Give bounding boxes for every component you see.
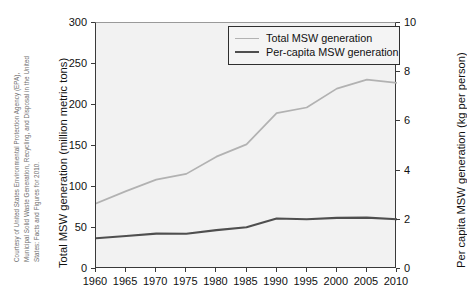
y-axis-right-tick-label: 8	[404, 65, 426, 77]
y-axis-right-tick-label: 10	[404, 16, 426, 28]
y-axis-left-tick-label: 100	[53, 180, 87, 192]
y-axis-right-title: Per capita MSW generation (kg per person…	[455, 52, 467, 268]
legend-label-total: Total MSW generation	[266, 32, 372, 44]
source-credit-line-3: States: Facts and Figures for 2010.	[33, 162, 40, 262]
y-axis-right-tick-label: 2	[404, 213, 426, 225]
y-axis-left-tick-label: 150	[53, 139, 87, 151]
x-axis-tickmark	[215, 268, 216, 272]
y-axis-left-tick-label: 250	[53, 57, 87, 69]
y-axis-left-tickmark	[91, 63, 95, 64]
source-credit-line-2: Municipal Solid Waste Generation, Recycl…	[23, 56, 30, 262]
y-axis-right-tickmark	[396, 22, 400, 23]
y-axis-left-tick-label: 50	[53, 221, 87, 233]
y-axis-left-title: Total MSW generation (million metric ton…	[57, 58, 69, 268]
source-credit: Courtesy of United States Environmental …	[0, 0, 42, 306]
x-axis-tick-label: 2010	[376, 275, 416, 287]
x-axis-tickmark	[125, 268, 126, 272]
x-axis-tickmark	[336, 268, 337, 272]
legend-item-percapita: Per-capita MSW generation	[235, 45, 393, 59]
per-capita-msw-generation-line	[96, 218, 397, 239]
y-axis-right-tick-label: 6	[404, 114, 426, 126]
total-msw-generation-line	[96, 80, 397, 204]
y-axis-left-tickmark	[91, 22, 95, 23]
y-axis-left-tickmark	[91, 104, 95, 105]
x-axis-tickmark	[366, 268, 367, 272]
x-axis-tickmark	[276, 268, 277, 272]
y-axis-left-tick-label: 200	[53, 98, 87, 110]
y-axis-right-tick-label: 0	[404, 262, 426, 274]
x-axis-tickmark	[185, 268, 186, 272]
y-axis-left-tickmark	[91, 186, 95, 187]
y-axis-right-tickmark	[396, 170, 400, 171]
legend: Total MSW generation Per-capita MSW gene…	[228, 26, 400, 65]
y-axis-right-tickmark	[396, 120, 400, 121]
source-credit-line-1: Courtesy of United States Environmental …	[13, 73, 20, 262]
legend-swatch-total-icon	[235, 38, 259, 39]
x-axis-tickmark	[396, 268, 397, 272]
y-axis-right-tick-label: 4	[404, 164, 426, 176]
y-axis-left-tick-label: 300	[53, 16, 87, 28]
y-axis-left-tick-label: 0	[53, 262, 87, 274]
x-axis-tickmark	[95, 268, 96, 272]
y-axis-right-tickmark	[396, 71, 400, 72]
legend-item-total: Total MSW generation	[235, 31, 393, 45]
legend-label-percapita: Per-capita MSW generation	[266, 46, 399, 58]
x-axis-tickmark	[155, 268, 156, 272]
y-axis-right-tickmark	[396, 219, 400, 220]
legend-swatch-percapita-icon	[235, 51, 259, 53]
y-axis-left-tickmark	[91, 145, 95, 146]
x-axis-tickmark	[306, 268, 307, 272]
y-axis-left-tickmark	[91, 227, 95, 228]
x-axis-tickmark	[246, 268, 247, 272]
